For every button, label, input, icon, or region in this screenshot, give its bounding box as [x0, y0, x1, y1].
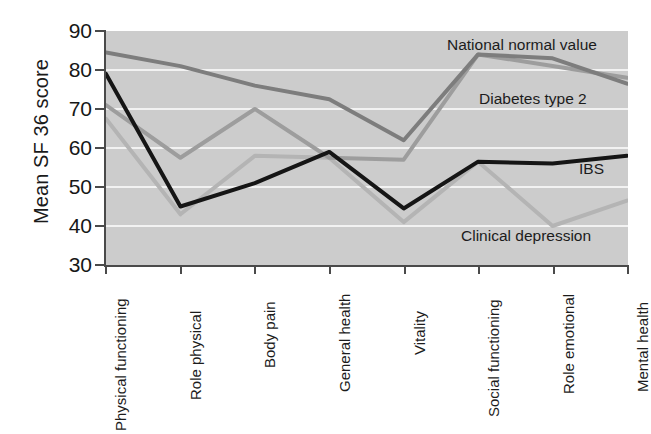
series-annotation-diabetes-type-2: Diabetes type 2	[479, 91, 587, 107]
y-tick-mark-80	[95, 69, 105, 71]
x-category-label-role-physical: Role physical	[188, 311, 203, 400]
y-tick-mark-50	[95, 186, 105, 188]
y-tick-mark-40	[95, 225, 105, 227]
x-category-label-role-emotional: Role emotional	[561, 294, 576, 394]
x-tick-mark-4	[404, 265, 406, 274]
x-category-label-social-functioning: Social functioning	[486, 299, 501, 417]
series-line-clinical-depression	[106, 119, 627, 226]
x-category-label-physical-functioning: Physical functioning	[113, 298, 128, 431]
y-tick-mark-70	[95, 108, 105, 110]
y-axis-tick-labels: 90 80 70 60 50 40 30	[44, 0, 92, 434]
y-tick-label-70: 70	[48, 98, 92, 119]
x-tick-mark-0	[105, 265, 107, 274]
x-tick-mark-7	[627, 265, 629, 274]
x-tick-mark-6	[553, 265, 555, 274]
y-tick-label-40: 40	[48, 215, 92, 236]
x-tick-mark-2	[254, 265, 256, 274]
y-tick-label-30: 30	[48, 254, 92, 275]
y-tick-label-90: 90	[48, 20, 92, 41]
x-category-label-general-health: General health	[337, 294, 352, 392]
x-tick-mark-3	[329, 265, 331, 274]
x-category-label-body-pain: Body pain	[262, 301, 277, 368]
y-tick-label-50: 50	[48, 176, 92, 197]
y-tick-mark-90	[95, 30, 105, 32]
y-tick-mark-30	[95, 264, 105, 266]
series-annotation-national-normal-value: National normal value	[447, 37, 597, 53]
x-category-label-mental-health: Mental health	[635, 302, 650, 392]
series-lines	[106, 52, 627, 226]
series-annotation-ibs: IBS	[579, 161, 604, 177]
y-tick-label-80: 80	[48, 59, 92, 80]
x-category-label-vitality: Vitality	[412, 311, 427, 355]
y-tick-mark-60	[95, 147, 105, 149]
y-tick-label-60: 60	[48, 137, 92, 158]
x-axis-line	[104, 265, 628, 267]
x-tick-mark-1	[180, 265, 182, 274]
series-annotation-clinical-depression: Clinical depression	[461, 228, 591, 244]
x-tick-mark-5	[478, 265, 480, 274]
